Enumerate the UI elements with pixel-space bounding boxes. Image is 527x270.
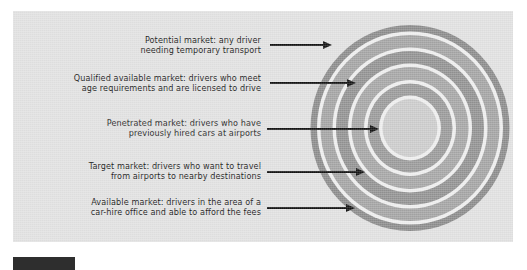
arrow-shaft bbox=[267, 128, 370, 130]
arrow-shaft bbox=[270, 82, 347, 84]
label-potential-market: Potential market: any driver needing tem… bbox=[31, 35, 261, 56]
label-target-market-line1: Target market: drivers who want to trave… bbox=[31, 161, 261, 171]
arrow-potential-market bbox=[270, 41, 332, 50]
label-available-market-line2: car-hire office and able to afford the f… bbox=[31, 207, 261, 217]
label-penetrated-market: Penetrated market: drivers who have prev… bbox=[31, 118, 261, 139]
caption-tag bbox=[13, 257, 75, 270]
label-potential-market-line2: needing temporary transport bbox=[31, 45, 261, 55]
arrow-head-icon bbox=[347, 79, 356, 87]
arrow-target-market bbox=[267, 168, 365, 177]
arrow-head-icon bbox=[370, 125, 379, 133]
label-available-market: Available market: drivers in the area of… bbox=[31, 197, 261, 218]
label-available-market-line1: Available market: drivers in the area of… bbox=[31, 197, 261, 207]
label-qualified-available-market: Qualified available market: drivers who … bbox=[31, 73, 261, 94]
figure-caption-bar bbox=[13, 257, 513, 270]
arrow-head-icon bbox=[346, 204, 355, 212]
label-potential-market-line1: Potential market: any driver bbox=[31, 35, 261, 45]
bullseye-core bbox=[382, 99, 437, 157]
arrow-shaft bbox=[267, 207, 346, 209]
label-penetrated-market-line2: previously hired cars at airports bbox=[31, 128, 261, 138]
arrow-head-icon bbox=[356, 168, 365, 176]
label-qualified-available-market-line1: Qualified available market: drivers who … bbox=[31, 73, 261, 83]
label-qualified-available-market-line2: age requirements and are licensed to dri… bbox=[31, 83, 261, 93]
arrow-available-market bbox=[267, 204, 355, 213]
arrow-qualified-available-market bbox=[270, 79, 356, 88]
label-target-market: Target market: drivers who want to trave… bbox=[31, 161, 261, 182]
arrow-penetrated-market bbox=[267, 125, 379, 134]
arrow-shaft bbox=[270, 44, 323, 46]
arrow-shaft bbox=[267, 171, 356, 173]
label-target-market-line2: from airports to nearby destinations bbox=[31, 171, 261, 181]
label-penetrated-market-line1: Penetrated market: drivers who have bbox=[31, 118, 261, 128]
arrow-head-icon bbox=[323, 41, 332, 49]
figure-panel: Potential market: any driver needing tem… bbox=[13, 11, 513, 242]
